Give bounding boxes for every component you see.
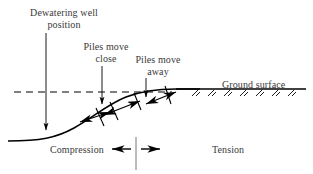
- label-ground-surface: Ground surface: [222, 79, 285, 91]
- dewatering-well-line2: position: [47, 19, 80, 30]
- label-compression: Compression: [50, 144, 104, 156]
- dewatering-well-line1: Dewatering well: [30, 7, 98, 18]
- ground-hatching: [192, 90, 296, 96]
- displacement-arrow-mid: [104, 101, 140, 115]
- piles-close-line1: Piles move: [83, 41, 128, 52]
- piles-close-line2: close: [95, 53, 116, 64]
- displacement-arrow-right: [146, 92, 176, 104]
- displacement-arrow-left: [80, 112, 110, 122]
- piles-away-line2: away: [147, 66, 169, 77]
- label-dewatering-well-position: Dewatering well position: [12, 7, 116, 30]
- label-piles-move-away: Piles move away: [126, 54, 190, 77]
- piles-away-line1: Piles move: [135, 54, 180, 65]
- dewatering-settlement-diagram: Dewatering well position Piles move clos…: [0, 0, 313, 174]
- label-tension: Tension: [212, 144, 244, 156]
